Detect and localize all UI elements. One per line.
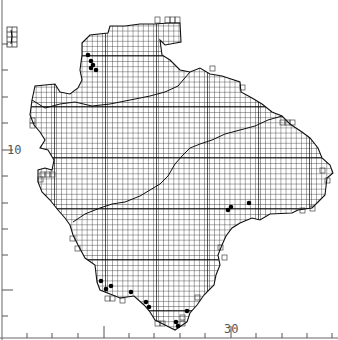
record-dot	[109, 284, 114, 289]
y-axis	[2, 0, 13, 340]
record-dot	[86, 53, 91, 58]
x-axis-label: 30	[224, 323, 238, 335]
record-dot	[247, 201, 252, 206]
record-dot	[176, 324, 181, 329]
distribution-map	[0, 0, 338, 340]
record-dot	[229, 205, 234, 210]
x-axis	[0, 326, 338, 338]
y-axis-label: 10	[7, 144, 21, 156]
inset-box	[7, 27, 17, 47]
record-dot	[147, 305, 152, 310]
record-dot	[174, 320, 179, 325]
record-dot	[99, 279, 104, 284]
record-dot	[104, 287, 109, 292]
record-dot	[129, 290, 134, 295]
record-dot	[185, 309, 190, 314]
record-dot	[94, 68, 99, 73]
record-dot	[89, 59, 94, 64]
record-dot	[144, 300, 149, 305]
record-dot	[89, 66, 94, 71]
